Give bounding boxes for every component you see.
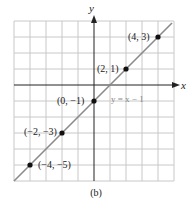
equation-label: y = x − 1 [111,95,144,104]
point-label-4-3: (4, 3) [128,32,150,42]
point-neg2-neg3 [59,130,64,135]
point-0-neg1 [91,98,96,103]
point-4-3 [155,34,160,39]
coordinate-plane [0,0,192,216]
point-neg4-neg5 [27,162,32,167]
point-label-2-1: (2, 1) [97,64,119,74]
x-axis-label: x [181,80,186,91]
y-axis-label: y [89,3,94,14]
y-axis-arrow-icon [91,15,97,23]
point-label-0-neg1: (0, −1) [57,96,84,106]
figure-caption: (b) [0,187,192,198]
point-label-neg2-neg3: (−2, −3) [24,127,57,137]
point-label-neg4-neg5: (−4, −5) [38,160,71,170]
x-axis-arrow-icon [172,82,180,88]
point-2-1 [123,66,128,71]
figure: y x (4, 3) (2, 1) (0, −1) (−2, −3) (−4, … [0,0,192,216]
